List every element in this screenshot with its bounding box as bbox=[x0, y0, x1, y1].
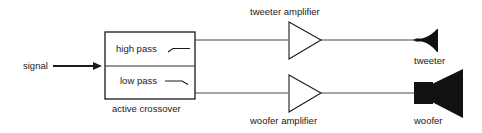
high-pass-curve-icon bbox=[168, 49, 190, 53]
woofer-label: woofer bbox=[414, 116, 443, 126]
woofer-amplifier-icon bbox=[289, 75, 321, 112]
woofer-speaker-icon bbox=[414, 69, 463, 118]
tweeter-horn-icon bbox=[413, 29, 438, 52]
woofer-amplifier-label: woofer amplifier bbox=[250, 116, 317, 126]
low-pass-label: low pass bbox=[120, 76, 157, 86]
low-pass-curve-icon bbox=[165, 81, 188, 85]
tweeter-label: tweeter bbox=[414, 56, 445, 66]
tweeter-amplifier-label: tweeter amplifier bbox=[250, 7, 320, 17]
signal-arrow bbox=[53, 62, 102, 70]
tweeter-amplifier-icon bbox=[289, 22, 321, 59]
diagram-canvas bbox=[0, 0, 482, 133]
high-pass-label: high pass bbox=[116, 44, 157, 54]
signal-label: signal bbox=[23, 61, 48, 71]
active-crossover-label: active crossover bbox=[112, 104, 181, 114]
